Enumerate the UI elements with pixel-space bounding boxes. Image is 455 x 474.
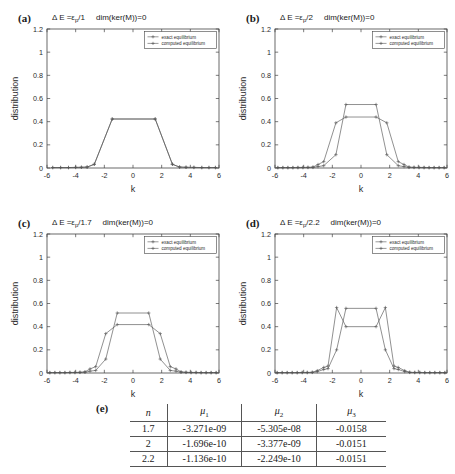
table-cell-n: 2	[130, 437, 167, 452]
panel-title-d-kernel: dim(ker(M))=0	[331, 218, 381, 227]
panel-title-b-prefix: Δ E =ε	[280, 13, 303, 22]
x-tick-label: 4	[188, 376, 192, 385]
x-axis-label: k	[131, 184, 136, 194]
plot-frame	[47, 234, 219, 373]
table-row: 2.2-1.136e-10-2.249e-10-0.0151	[130, 452, 386, 467]
y-tick-label: 0.8	[33, 71, 43, 80]
x-tick-label: -6	[272, 376, 278, 385]
chart-svg-a: -6-4-2024600.20.40.60.811.2kdistribution…	[0, 0, 227, 205]
legend-label-computed: computed equilibrium	[162, 41, 206, 46]
x-tick-label: -2	[101, 376, 107, 385]
panel-title-c: Δ E =εp/1.7dim(ker(M))=0	[52, 218, 227, 228]
y-tick-label: 0.6	[33, 94, 43, 103]
x-axis-label: k	[359, 184, 364, 194]
x-tick-label: 6	[445, 171, 449, 180]
y-tick-label: 0.6	[33, 299, 43, 308]
table-cell-mu3: -0.0151	[316, 437, 386, 452]
table-cell-mu1: -1.696e-10	[167, 437, 242, 452]
x-tick-label: -2	[101, 171, 107, 180]
x-tick-label: -6	[44, 376, 50, 385]
panel-label-c: (c)	[18, 217, 30, 229]
x-tick-label: 0	[131, 171, 135, 180]
table-row: 1.7-3.271e-09-5.305e-08-0.0158	[130, 422, 386, 437]
x-tick-label: 6	[217, 376, 221, 385]
x-tick-label: -6	[44, 171, 50, 180]
plot-panel-a: (a) Δ E =εp/1dim(ker(M))=0 -6-4-2024600.…	[0, 0, 227, 205]
mu-table-body: 1.7-3.271e-09-5.305e-08-0.01582-1.696e-1…	[130, 422, 386, 467]
plot-panel-d: (d) Δ E =εp/2.2dim(ker(M))=0 -6-4-202460…	[228, 205, 455, 410]
y-tick-label: 0	[39, 369, 43, 378]
panel-label-a: (a)	[18, 12, 31, 24]
panel-title-c-kernel: dim(ker(M))=0	[103, 218, 153, 227]
y-tick-label: 0.2	[33, 345, 43, 354]
panel-title-a: Δ E =εp/1dim(ker(M))=0	[52, 13, 227, 23]
plot-frame	[275, 29, 447, 168]
x-tick-label: 6	[445, 376, 449, 385]
th-mu1: μ1	[167, 404, 242, 422]
y-tick-label: 1.2	[33, 25, 43, 34]
x-tick-label: -4	[72, 376, 78, 385]
y-tick-label: 1.2	[33, 230, 43, 239]
y-tick-label: 0.4	[33, 117, 43, 126]
x-tick-label: 0	[359, 171, 363, 180]
y-tick-label: 0.8	[261, 276, 271, 285]
y-tick-label: 0.8	[33, 276, 43, 285]
legend-label-exact: exact equilibrium	[162, 240, 197, 245]
x-tick-label: 0	[359, 376, 363, 385]
x-tick-label: -4	[300, 171, 306, 180]
y-tick-label: 1	[39, 48, 43, 57]
y-tick-label: 1.2	[261, 25, 271, 34]
panel-title-c-denom: /1.7	[78, 218, 91, 227]
table-cell-mu1: -3.271e-09	[167, 422, 242, 437]
th-n: n	[130, 404, 167, 422]
panel-title-d-denom: /2.2	[306, 218, 319, 227]
table-cell-mu3: -0.0151	[316, 452, 386, 467]
x-tick-label: 4	[416, 376, 420, 385]
legend-label-computed: computed equilibrium	[390, 41, 434, 46]
plot-panel-c: (c) Δ E =εp/1.7dim(ker(M))=0 -6-4-202460…	[0, 205, 227, 410]
legend-label-computed: computed equilibrium	[390, 246, 434, 251]
x-tick-label: -4	[72, 171, 78, 180]
legend-label-exact: exact equilibrium	[390, 35, 425, 40]
figure-root: (a) Δ E =εp/1dim(ker(M))=0 -6-4-2024600.…	[0, 0, 455, 474]
panel-title-a-denom: /1	[78, 13, 85, 22]
mu-table-head: n μ1 μ2 μ3	[130, 404, 386, 422]
th-mu2: μ2	[242, 404, 317, 422]
y-tick-label: 0.2	[261, 345, 271, 354]
y-tick-label: 0.2	[261, 140, 271, 149]
table-cell-mu2: -5.305e-08	[242, 422, 317, 437]
y-axis-label: distribution	[10, 77, 20, 121]
legend-label-computed: computed equilibrium	[162, 246, 206, 251]
chart-svg-c: -6-4-2024600.20.40.60.811.2kdistribution…	[0, 205, 227, 410]
x-tick-label: 2	[160, 171, 164, 180]
th-mu3: μ3	[316, 404, 386, 422]
y-tick-label: 0	[267, 164, 271, 173]
y-tick-label: 0.6	[261, 94, 271, 103]
y-axis-label: distribution	[238, 282, 248, 326]
panel-title-d-prefix: Δ E =ε	[280, 218, 303, 227]
x-tick-label: 0	[131, 376, 135, 385]
mu-table-header-row: n μ1 μ2 μ3	[130, 404, 386, 422]
y-tick-label: 0	[39, 164, 43, 173]
table-cell-mu3: -0.0158	[316, 422, 386, 437]
y-tick-label: 1.2	[261, 230, 271, 239]
y-tick-label: 0	[267, 369, 271, 378]
x-axis-label: k	[359, 389, 364, 399]
y-tick-label: 1	[39, 253, 43, 262]
y-tick-label: 1	[267, 48, 271, 57]
table-row: 2-1.696e-10-3.377e-09-0.0151	[130, 437, 386, 452]
x-tick-label: 2	[388, 171, 392, 180]
x-axis-label: k	[131, 389, 136, 399]
y-axis-label: distribution	[238, 77, 248, 121]
legend-label-exact: exact equilibrium	[390, 240, 425, 245]
x-tick-label: 6	[217, 171, 221, 180]
panel-title-a-kernel: dim(ker(M))=0	[96, 13, 146, 22]
panel-title-a-prefix: Δ E =ε	[52, 13, 75, 22]
table-cell-mu1: -1.136e-10	[167, 452, 242, 467]
x-tick-label: -2	[329, 376, 335, 385]
x-tick-label: -4	[300, 376, 306, 385]
plot-panel-b: (b) Δ E =εp/2dim(ker(M))=0 -6-4-2024600.…	[228, 0, 455, 205]
x-tick-label: -2	[329, 171, 335, 180]
table-cell-n: 1.7	[130, 422, 167, 437]
x-tick-label: 4	[416, 171, 420, 180]
